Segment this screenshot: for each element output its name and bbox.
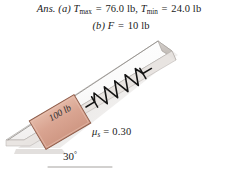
tmax-value: 76.0 lb, [105,3,138,14]
incline-diagram: 100 lb μs = 0.30 30° [0,30,240,173]
mu-subscript: s [97,131,100,139]
degree-symbol: ° [74,150,77,159]
mu-value: 0.30 [112,126,131,137]
mu-equals: = [103,126,109,137]
tmax-equals: = [95,3,103,14]
tmax-subscript: max [80,8,92,16]
tmin-value: 24.0 lb [171,3,201,14]
angle-value: 30 [63,150,74,162]
ramp-wedge [6,41,176,146]
answer-text-block: Ans. (a) Tmax = 76.0 lb, Tmin = 24.0 lb … [0,0,240,32]
incline-angle-label: 30° [63,150,77,162]
answer-line-a: Ans. (a) Tmax = 76.0 lb, Tmin = 24.0 lb [0,2,240,19]
tmin-subscript: min [147,8,158,16]
figure-page: Ans. (a) Tmax = 76.0 lb, Tmin = 24.0 lb … [0,0,240,173]
incline-diagram-svg [0,30,240,173]
tmin-equals: = [161,3,169,14]
part-a-marker: (a) [58,3,71,14]
ans-prefix: Ans. [37,3,56,14]
friction-coefficient-label: μs = 0.30 [92,126,131,139]
